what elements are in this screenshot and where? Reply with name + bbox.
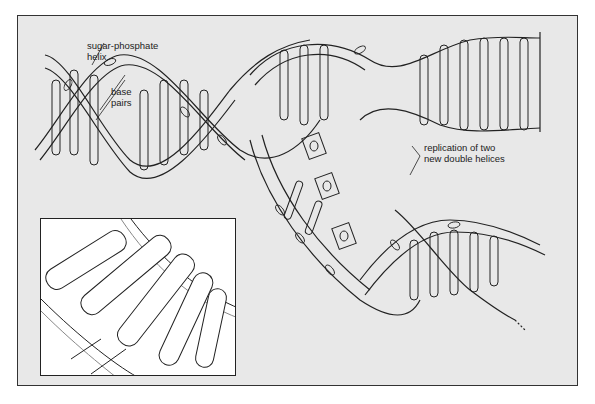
backbone-strand	[395, 210, 515, 320]
label-line: new double helices	[424, 153, 505, 164]
label-line: replication of two	[424, 142, 505, 153]
label-replication: replication of two new double helices	[424, 142, 505, 164]
label-line: base	[111, 86, 132, 97]
leader-line	[410, 146, 420, 175]
backbone-strand	[360, 109, 540, 131]
label-line: pairs	[111, 97, 132, 108]
backbone-strand	[250, 37, 540, 75]
backbone-strand	[365, 232, 545, 295]
backbone-strand	[45, 40, 310, 166]
inset-closeup	[40, 218, 236, 376]
label-sugar-phosphate: sugar-phosphate helix	[87, 40, 158, 62]
backbone-strand	[255, 54, 365, 85]
label-line: sugar-phosphate	[87, 40, 158, 51]
label-base-pairs: base pairs	[111, 86, 132, 108]
base-pair-closeup-illustration	[41, 219, 236, 376]
label-line: helix	[87, 51, 158, 62]
backbone-strand	[515, 320, 525, 330]
backbone-strand	[40, 65, 245, 160]
